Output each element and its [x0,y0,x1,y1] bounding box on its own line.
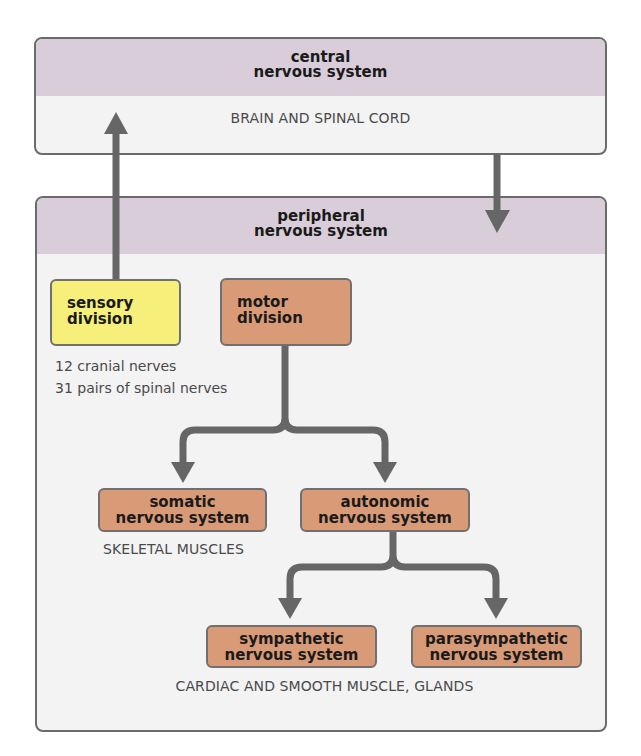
sensory-line1: sensory [67,295,179,311]
parasympathetic-nervous-system-box: parasympathetic nervous system [411,625,582,668]
somatic-nervous-system-box: somatic nervous system [98,488,267,532]
somatic-line2: nervous system [100,510,265,526]
sensory-division-box: sensory division [50,279,181,346]
motor-line2: division [237,310,350,326]
skeletal-muscles-label: SKELETAL MUSCLES [103,541,244,557]
cranial-nerves-text: 12 cranial nerves [55,355,227,377]
autonomic-targets-label: CARDIAC AND SMOOTH MUSCLE, GLANDS [0,678,641,694]
parasympathetic-line2: nervous system [413,647,580,663]
peripheral-title-line2: nervous system [37,224,605,239]
central-nervous-system-panel: central nervous system BRAIN AND SPINAL … [34,37,607,155]
central-description: BRAIN AND SPINAL CORD [36,110,605,126]
autonomic-line1: autonomic [302,494,468,510]
spinal-nerves-text: 31 pairs of spinal nerves [55,377,227,399]
peripheral-panel-header: peripheral nervous system [37,198,605,254]
sensory-line2: division [67,311,179,327]
motor-division-box: motor division [220,278,352,346]
autonomic-line2: nervous system [302,510,468,526]
sympathetic-nervous-system-box: sympathetic nervous system [206,625,377,668]
sympathetic-line2: nervous system [208,647,375,663]
sensory-nerves-note: 12 cranial nerves 31 pairs of spinal ner… [55,355,227,399]
parasympathetic-line1: parasympathetic [413,631,580,647]
central-title-line2: nervous system [36,65,605,80]
motor-line1: motor [237,294,350,310]
somatic-line1: somatic [100,494,265,510]
sympathetic-line1: sympathetic [208,631,375,647]
autonomic-nervous-system-box: autonomic nervous system [300,488,470,532]
central-panel-header: central nervous system [36,39,605,96]
